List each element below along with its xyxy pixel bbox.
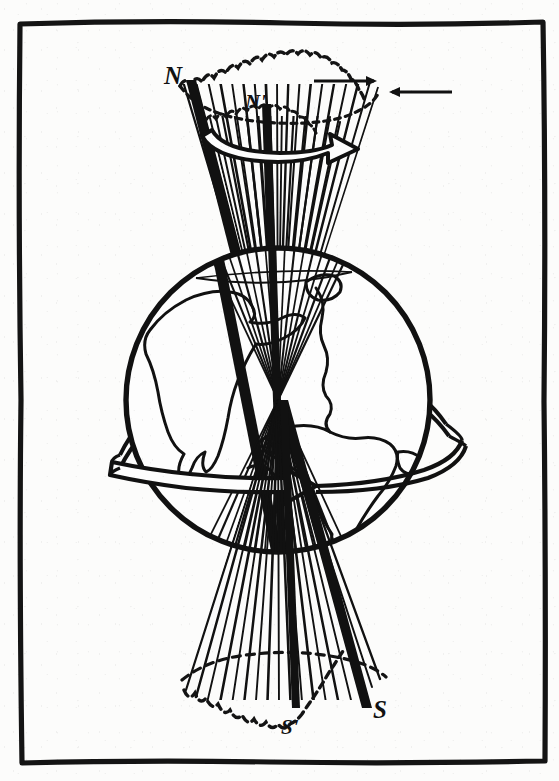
label-north-pole: N xyxy=(164,63,182,88)
label-south-pole: S xyxy=(373,697,387,722)
precession-diagram xyxy=(0,0,559,781)
figure-canvas: N N' S S' xyxy=(0,0,559,781)
label-north-mean-axis: N' xyxy=(245,92,266,113)
pointer-arrow-left xyxy=(389,87,452,97)
label-south-mean-axis: S' xyxy=(281,717,299,738)
